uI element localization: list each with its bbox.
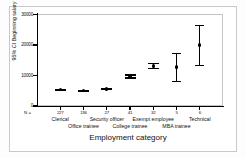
error-bar: [143, 0, 163, 110]
error-bar-cap-upper: [195, 25, 204, 26]
data-point-marker: [198, 43, 201, 46]
category-label: Technical: [172, 116, 228, 122]
data-point-marker: [152, 64, 155, 67]
error-bar: [50, 0, 70, 110]
category-label: MBA trainee: [149, 123, 205, 129]
y-tick: [33, 75, 37, 76]
y-axis-line: [37, 13, 38, 107]
y-axis-tick-labels: 0100002000030000: [2, 0, 33, 110]
y-axis-title: 95% CI Beginning salary: [11, 0, 17, 68]
y-tick-label: 0: [7, 103, 33, 108]
y-tick: [33, 105, 37, 106]
data-point-marker: [175, 65, 178, 68]
data-point-marker: [59, 88, 62, 91]
sample-size-value: 41: [121, 110, 139, 115]
x-axis-title: Employment category: [0, 133, 246, 143]
error-bar-cap-lower: [172, 81, 181, 82]
data-point-marker: [105, 87, 108, 90]
error-bar: [120, 0, 140, 110]
error-bar: [74, 0, 94, 110]
sample-size-value: 27: [98, 110, 116, 115]
data-point-marker: [82, 89, 85, 92]
error-bar-cap-lower: [148, 68, 159, 69]
error-bar-cap-upper: [172, 53, 181, 54]
n-equals-label: N =: [24, 110, 31, 115]
sample-size-value: 6: [191, 110, 209, 115]
chart-container: 0100002000030000 95% CI Beginning salary…: [0, 0, 246, 158]
data-point-marker: [128, 75, 131, 78]
y-tick-label: 10000: [7, 73, 33, 78]
error-bar-cap-lower: [195, 65, 204, 66]
x-axis-title-text: Employment category: [79, 133, 166, 142]
error-bar: [167, 0, 187, 110]
sample-size-value: 32: [144, 110, 162, 115]
sample-size-value: 136: [75, 110, 93, 115]
y-tick: [33, 14, 37, 15]
y-tick: [33, 44, 37, 45]
sample-size-value: 227: [51, 110, 69, 115]
error-bar: [97, 0, 117, 110]
error-bar: [190, 0, 210, 110]
sample-size-value: 5: [168, 110, 186, 115]
